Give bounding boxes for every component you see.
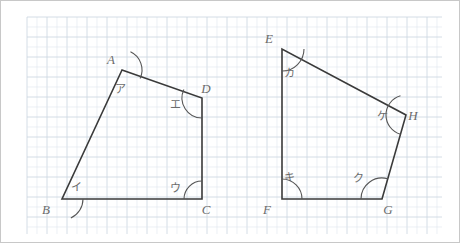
angle-mark-label-d: エ — [170, 98, 181, 111]
shape-outline — [62, 70, 202, 199]
angle-mark-label-c: ウ — [170, 182, 181, 195]
vertex-label-f: F — [262, 202, 272, 217]
vertex-label-e: E — [264, 31, 273, 46]
quadrilaterals-layer: アAイBウCエDカEキFクGケH — [42, 31, 418, 218]
vertex-label-h: H — [407, 108, 418, 123]
angle-mark-label-b: イ — [71, 181, 82, 194]
vertex-label-d: D — [200, 81, 211, 96]
angle-mark-label-a: ア — [115, 83, 126, 96]
angle-mark-label-g: ク — [353, 172, 364, 185]
vertex-label-b: B — [42, 202, 50, 217]
vertex-label-c: C — [202, 202, 211, 217]
diagram-page: アAイBウCエDカEキFクGケH — [0, 0, 460, 243]
geometry-figure-canvas: アAイBウCエDカEキFクGケH — [1, 1, 460, 243]
angle-arc-g — [361, 178, 388, 199]
angle-mark-label-f: キ — [284, 171, 295, 184]
angle-mark-label-h: ケ — [377, 110, 388, 123]
angle-mark-label-e: カ — [284, 67, 295, 80]
quadrilateral-efgh: カEキFクGケH — [262, 31, 418, 217]
vertex-label-a: A — [106, 52, 115, 67]
angle-arc-h — [386, 96, 401, 134]
graph-paper-grid — [27, 17, 442, 234]
vertex-label-g: G — [383, 202, 393, 217]
